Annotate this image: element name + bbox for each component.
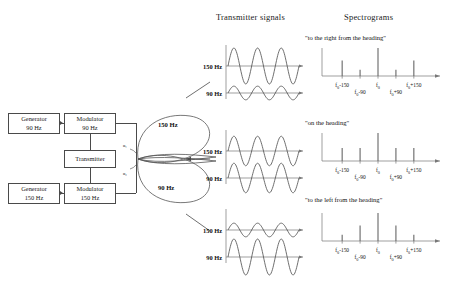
spectrogram-ticklabels-right: f0-150f0-90f0f0+90f0+150 (318, 82, 444, 98)
waveform-label-90hz-top: 90 Hz (196, 90, 222, 97)
spectrogram-tick-label: f0+150 (406, 167, 421, 175)
block-generator-150[interactable]: Generator 150 Hz (8, 183, 60, 204)
spectrogram-caption-left: "to the left from the heading" (305, 196, 382, 203)
spectrogram-tick-label: f0-150 (335, 82, 349, 90)
spectrogram-tick-label: f0 (376, 167, 380, 175)
spectrogram-tick-label: f0 (376, 82, 380, 90)
block-transmitter[interactable]: Transmitter (64, 150, 116, 168)
block-modulator-150-line2: 150 Hz (81, 194, 100, 202)
arrow-gen150-to-mod150 (60, 191, 63, 195)
waveform-label-150hz-bottom: 150 Hz (196, 227, 222, 234)
spectrogram-tick-label: f0-90 (355, 174, 366, 182)
spectrogram-tick-label: f0+90 (390, 254, 402, 262)
wire-mod90-to-transmitter (90, 134, 91, 150)
waveform-label-150hz-top: 150 Hz (196, 63, 222, 70)
arrow-gen90-to-mod90 (60, 121, 63, 125)
waveform-label-90hz-bottom: 90 Hz (196, 254, 222, 261)
angle-label-alpha2: α₂ (123, 171, 127, 176)
block-transmitter-line1: Transmitter (75, 155, 105, 163)
spectrogram-tick-label: f0+150 (406, 247, 421, 255)
spectrogram-x-axis-arrow (435, 159, 440, 163)
waveform-group-on-heading (225, 126, 307, 190)
spectrogram-tick-label: f0+90 (390, 174, 402, 182)
spectrogram-caption-right: "to the right from the heading" (305, 34, 386, 41)
waveform-label-150hz-middle: 150 Hz (196, 148, 222, 155)
spectrogram-tick-label: f0+90 (390, 89, 402, 97)
diagram-canvas: Transmitter signals Spectrograms Generat… (0, 0, 451, 281)
angle-arc-lower (130, 165, 136, 169)
spectrogram-caption-center: "on the heading" (305, 119, 349, 126)
spectrogram-tick-label: f0+150 (406, 82, 421, 90)
wire-mod150-to-transmitter (90, 168, 91, 183)
angle-label-alpha1: α₁ (123, 143, 127, 148)
block-generator-90-line2: 90 Hz (26, 124, 41, 132)
spectrogram-right-of-heading (318, 46, 444, 82)
block-modulator-150[interactable]: Modulator 150 Hz (64, 183, 116, 204)
spectrogram-ticklabels-left: f0-150f0-90f0f0+90f0+150 (318, 247, 444, 263)
waveform-group-right-of-heading (225, 41, 307, 105)
spectrogram-left-of-heading (318, 211, 444, 247)
angle-arc-upper (130, 149, 136, 153)
block-generator-90[interactable]: Generator 90 Hz (8, 113, 60, 134)
block-modulator-90[interactable]: Modulator 90 Hz (64, 113, 116, 134)
header-transmitter-signals: Transmitter signals (216, 12, 285, 22)
lobe-label-150hz: 150 Hz (158, 121, 178, 128)
waveform-group-left-of-heading (225, 205, 307, 269)
block-generator-150-line2: 150 Hz (25, 194, 44, 202)
waveform-label-90hz-middle: 90 Hz (196, 175, 222, 182)
lobe-label-90hz: 90 Hz (158, 184, 174, 191)
block-modulator-90-line2: 90 Hz (82, 124, 97, 132)
spectrogram-tick-label: f0-150 (335, 247, 349, 255)
spectrogram-tick-label: f0 (376, 247, 380, 255)
spectrogram-ticklabels-center: f0-150f0-90f0f0+90f0+150 (318, 167, 444, 183)
block-modulator-150-line1: Modulator (77, 185, 104, 193)
spectrogram-x-axis-arrow (435, 74, 440, 78)
spectrogram-tick-label: f0-90 (355, 89, 366, 97)
block-generator-90-line1: Generator (21, 115, 47, 123)
spectrogram-tick-label: f0-90 (355, 254, 366, 262)
block-generator-150-line1: Generator (21, 185, 47, 193)
spectrogram-x-axis-arrow (435, 239, 440, 243)
spectrogram-on-heading (318, 131, 444, 167)
block-modulator-90-line1: Modulator (77, 115, 104, 123)
header-spectrograms: Spectrograms (344, 12, 393, 22)
leader-line-middle (184, 155, 212, 163)
spectrogram-tick-label: f0-150 (335, 167, 349, 175)
